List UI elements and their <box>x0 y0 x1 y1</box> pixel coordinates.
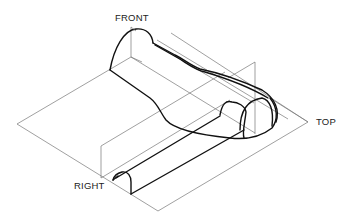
right-label: RIGHT <box>74 180 105 191</box>
canopy-outline <box>220 98 273 138</box>
projection-diagram <box>0 0 353 221</box>
front-label: FRONT <box>115 12 149 23</box>
right-plane <box>101 72 230 178</box>
top-label: TOP <box>316 116 336 127</box>
top-plane <box>17 57 308 211</box>
